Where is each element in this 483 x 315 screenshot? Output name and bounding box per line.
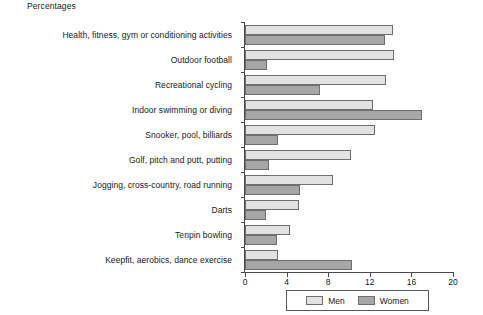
bar-men: [245, 250, 278, 260]
bar-men: [245, 225, 290, 235]
category-label: Keepfit, aerobics, dance exercise: [0, 255, 235, 265]
bar-women: [245, 135, 278, 145]
bar-women: [245, 160, 269, 170]
bar-men: [245, 175, 333, 185]
y-axis-tick: [241, 122, 245, 123]
bar-women: [245, 185, 300, 195]
y-axis-tick: [241, 72, 245, 73]
category-axis-labels: Health, fitness, gym or conditioning act…: [0, 22, 235, 272]
category-label: Snooker, pool, billiards: [0, 130, 235, 140]
y-axis-tick: [241, 47, 245, 48]
chart-legend: MenWomen: [286, 290, 429, 311]
chart-title: Percentages: [27, 1, 76, 11]
bar-men: [245, 100, 373, 110]
x-axis-tick-label: 16: [407, 277, 416, 287]
bar-women: [245, 35, 385, 45]
category-label: Golf, pitch and putt, putting: [0, 155, 235, 165]
x-axis-tick-label: 4: [284, 277, 289, 287]
bar-women: [245, 235, 277, 245]
bar-men: [245, 25, 393, 35]
category-label: Outdoor football: [0, 55, 235, 65]
x-axis-line: [244, 272, 454, 273]
x-axis-tick-label: 0: [243, 277, 248, 287]
y-axis-tick: [241, 172, 245, 173]
y-axis-tick: [241, 97, 245, 98]
bar-men: [245, 50, 394, 60]
y-axis-tick: [241, 197, 245, 198]
category-label: Tenpin bowling: [0, 230, 235, 240]
y-axis-tick: [241, 222, 245, 223]
legend-entry-women[interactable]: Women: [358, 296, 409, 306]
bar-women: [245, 260, 352, 270]
y-axis-tick: [241, 247, 245, 248]
x-axis-tick-label: 12: [365, 277, 374, 287]
bar-women: [245, 210, 266, 220]
legend-swatch-icon: [306, 296, 323, 305]
bar-women: [245, 110, 422, 120]
bar-women: [245, 85, 320, 95]
category-label: Jogging, cross-country, road running: [0, 180, 235, 190]
x-axis-tick-label: 20: [448, 277, 457, 287]
category-label: Health, fitness, gym or conditioning act…: [0, 30, 235, 40]
y-axis-tick: [241, 147, 245, 148]
category-label: Darts: [0, 205, 235, 215]
bar-men: [245, 75, 386, 85]
category-label: Recreational cycling: [0, 80, 235, 90]
legend-swatch-icon: [358, 296, 375, 305]
plot-area: [245, 22, 453, 272]
legend-entry-men[interactable]: Men: [306, 296, 345, 306]
y-axis-tick: [241, 22, 245, 23]
grouped-bar-chart: Percentages Health, fitness, gym or cond…: [0, 0, 483, 315]
bar-women: [245, 60, 267, 70]
bar-men: [245, 125, 375, 135]
bar-men: [245, 200, 299, 210]
legend-label: Women: [380, 296, 409, 306]
legend-label: Men: [328, 296, 345, 306]
x-axis-tick-label: 8: [326, 277, 331, 287]
category-label: Indoor swimming or diving: [0, 105, 235, 115]
bar-men: [245, 150, 351, 160]
